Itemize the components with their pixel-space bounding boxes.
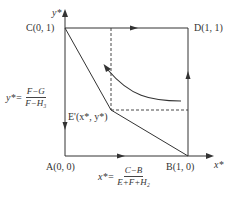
point-a-label: A(0, 0) [46, 162, 75, 172]
y-axis-arrow-icon [62, 9, 68, 17]
direction-arrow-icon [130, 26, 138, 31]
trajectory-curve [104, 64, 182, 101]
y-axis-label: y* [52, 8, 61, 18]
y-star-denominator: F−H₃ [24, 98, 47, 108]
edge-c-d [65, 26, 188, 31]
direction-arrow-icon [117, 154, 125, 159]
saddle-line [65, 28, 188, 156]
y-star-equation: y*= F−G F−H₃ [6, 87, 47, 108]
point-c-label: C(0, 1) [26, 23, 54, 33]
edge-b-d [186, 28, 191, 156]
x-star-lhs: x*= [98, 172, 114, 182]
x-star-equation: x*= C−B E+F+H₂ [98, 166, 151, 187]
direction-arrow-icon [186, 71, 191, 79]
x-axis-label: x* [214, 160, 223, 170]
trajectory-arrow-icon [104, 64, 112, 72]
direction-arrow-icon [63, 122, 68, 130]
x-axis [65, 153, 214, 159]
x-axis-arrow-icon [206, 153, 214, 159]
point-b-label: B(1, 0) [166, 162, 194, 172]
point-d-label: D(1, 1) [194, 23, 223, 33]
x-star-denominator: E+F+H₂ [116, 177, 151, 187]
point-e-label: E'(x*, y*) [68, 112, 108, 122]
x-star-numerator: C−B [124, 166, 144, 177]
y-star-lhs: y*= [6, 93, 22, 103]
y-star-numerator: F−G [26, 87, 46, 98]
